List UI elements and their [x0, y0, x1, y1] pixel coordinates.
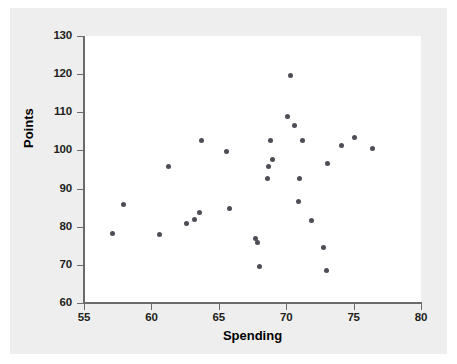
y-axis-line — [83, 36, 85, 304]
y-axis-tick — [77, 265, 83, 266]
y-axis-tick-label: 120 — [38, 67, 72, 79]
scatter-chart-figure: 60708090100110120130 556065707580 Points… — [0, 0, 457, 364]
y-axis-tick — [77, 36, 83, 37]
data-point — [257, 264, 262, 269]
data-point — [121, 202, 126, 207]
x-axis-tick — [421, 304, 422, 310]
data-point — [184, 221, 189, 226]
x-axis-line — [83, 302, 422, 304]
x-axis-tick-label: 70 — [266, 311, 306, 323]
x-axis-tick — [354, 304, 355, 310]
y-axis-tick — [77, 227, 83, 228]
y-axis-tick-label: 100 — [38, 143, 72, 155]
plot-area — [84, 36, 421, 303]
data-point — [292, 123, 297, 128]
data-point — [265, 176, 270, 181]
x-axis-tick — [286, 304, 287, 310]
data-point — [110, 231, 115, 236]
y-axis-tick-label: 110 — [38, 105, 72, 117]
y-axis-tick-label: 130 — [38, 29, 72, 41]
x-axis-tick — [219, 304, 220, 310]
x-axis-tick-label: 80 — [401, 311, 441, 323]
x-axis-title: Spending — [84, 328, 421, 343]
y-axis-tick-label: 90 — [38, 182, 72, 194]
data-point — [296, 199, 301, 204]
y-axis-tick — [77, 150, 83, 151]
data-point — [157, 232, 162, 237]
data-point — [339, 143, 344, 148]
x-axis-tick — [151, 304, 152, 310]
data-point — [199, 138, 204, 143]
y-axis-tick — [77, 74, 83, 75]
y-axis-tick — [77, 303, 83, 304]
x-axis-tick-label: 75 — [334, 311, 374, 323]
x-axis-tick-label: 65 — [199, 311, 239, 323]
y-axis-tick-label: 80 — [38, 220, 72, 232]
y-axis-tick — [77, 112, 83, 113]
y-axis-title: Points — [21, 108, 36, 148]
y-axis-tick — [77, 189, 83, 190]
data-point — [288, 73, 293, 78]
x-axis-tick — [84, 304, 85, 310]
x-axis-tick-label: 55 — [64, 311, 104, 323]
y-axis-tick-label: 70 — [38, 258, 72, 270]
y-axis-tick-label: 60 — [38, 296, 72, 308]
data-point — [268, 138, 273, 143]
x-axis-tick-label: 60 — [131, 311, 171, 323]
